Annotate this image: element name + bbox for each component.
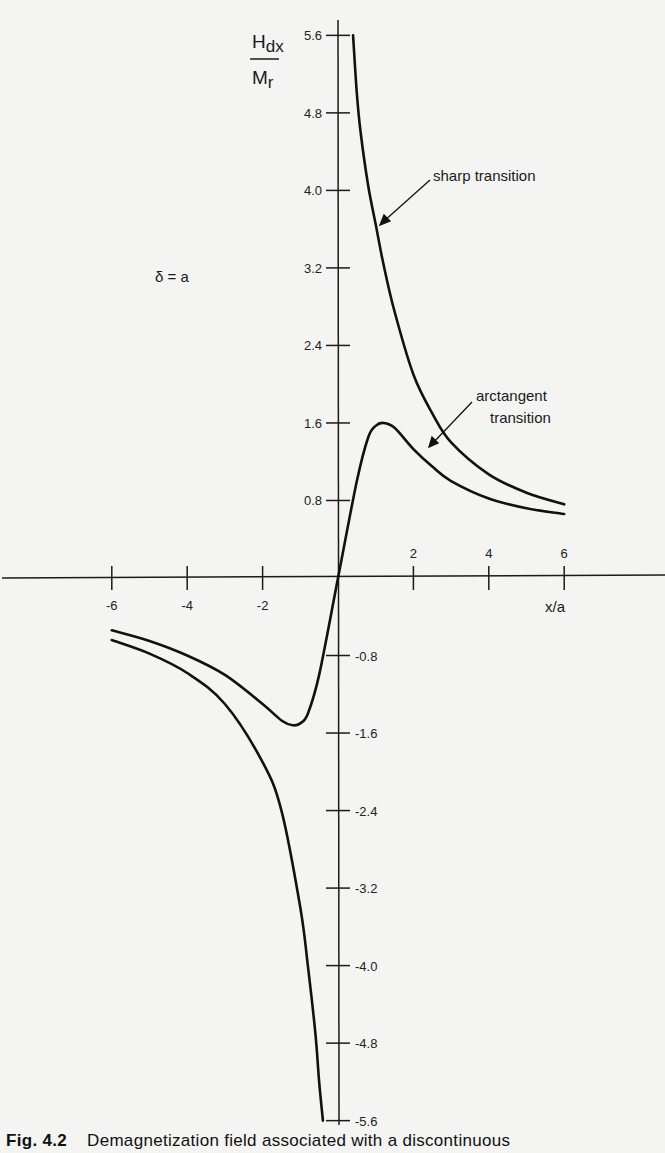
figure-caption: Fig. 4.2 Demagnetization field associate… bbox=[6, 1131, 510, 1151]
x-tick-label: -2 bbox=[257, 598, 269, 613]
y-axis-label: Hdx Mr bbox=[250, 31, 284, 92]
y-ticks: 5.64.84.03.22.41.60.8-0.8-1.6-2.4-3.2-4.… bbox=[304, 28, 377, 1128]
figure-caption-text: Demagnetization field associated with a … bbox=[87, 1131, 510, 1150]
x-axis-label: x/a bbox=[545, 598, 566, 615]
axes bbox=[2, 20, 665, 1125]
y-tick-label: -3.2 bbox=[355, 881, 377, 896]
y-tick-label: 3.2 bbox=[304, 261, 322, 276]
y-tick-label: -0.8 bbox=[355, 649, 377, 664]
sharp-transition-curve bbox=[353, 35, 564, 504]
y-tick-label: 4.8 bbox=[304, 106, 322, 121]
y-tick-label: 5.6 bbox=[304, 28, 322, 43]
y-tick-label: -4.8 bbox=[355, 1036, 377, 1051]
y-tick-label: -1.6 bbox=[355, 726, 377, 741]
x-tick-label: -4 bbox=[181, 598, 193, 613]
x-tick-label: 4 bbox=[485, 546, 492, 561]
svg-text:Mr: Mr bbox=[252, 67, 274, 92]
figure-number: Fig. 4.2 bbox=[6, 1131, 67, 1150]
y-tick-label: 0.8 bbox=[304, 493, 322, 508]
y-tick-label: 1.6 bbox=[304, 416, 322, 431]
arctangent-label-line1: arctangent bbox=[476, 387, 548, 404]
sharp-arrow-icon bbox=[380, 180, 430, 225]
x-axis bbox=[2, 575, 665, 578]
y-tick-label: -5.6 bbox=[355, 1114, 377, 1129]
y-tick-label: 2.4 bbox=[304, 338, 322, 353]
arctangent-label-line2: transition bbox=[490, 409, 551, 426]
svg-text:Hdx: Hdx bbox=[252, 31, 284, 56]
sharp-transition-label: sharp transition bbox=[433, 167, 536, 184]
x-tick-label: 6 bbox=[561, 546, 568, 561]
x-tick-label: -6 bbox=[106, 598, 118, 613]
delta-equals-a-label: δ = a bbox=[155, 268, 189, 285]
y-tick-label: 4.0 bbox=[304, 183, 322, 198]
y-tick-label: -4.0 bbox=[355, 959, 377, 974]
sharp-transition-negative-curve bbox=[112, 640, 323, 1121]
chart-canvas: -6-4-2246 5.64.84.03.22.41.60.8-0.8-1.6-… bbox=[0, 0, 665, 1130]
x-tick-label: 2 bbox=[410, 546, 417, 561]
y-tick-label: -2.4 bbox=[355, 804, 377, 819]
